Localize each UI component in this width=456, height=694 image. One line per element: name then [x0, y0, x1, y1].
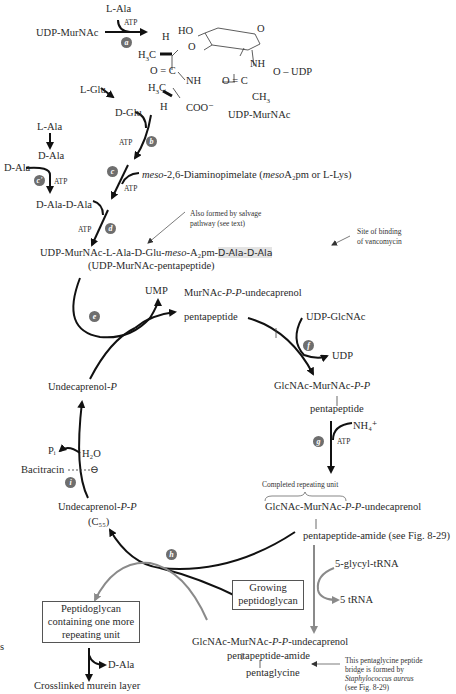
lipid-ii-label: GlcNAc-MurNAc-P-P [274, 380, 370, 392]
ump-label: UMP [145, 285, 168, 297]
d-glu-label: D-Glu [115, 107, 142, 119]
crosslinked-murein-label: Crosslinked murein layer [34, 680, 140, 692]
peptidoglycan-box: Peptidoglycan containing one more repeat… [42, 601, 140, 643]
inhibition-icon: ⊖ [90, 464, 99, 476]
atp-label-g: ATP [337, 437, 350, 446]
step-c-badge: c [107, 166, 118, 177]
step-i-badge: i [65, 477, 76, 488]
step-h-badge: h [166, 549, 177, 560]
pg-line1: Peptidoglycan [43, 602, 139, 615]
water-label: H₂O [82, 448, 101, 460]
step-a-badge: a [121, 37, 132, 48]
structure-label: UDP-MurNAc [228, 109, 290, 121]
l-ala-branch-label: L-Ala [37, 121, 62, 133]
structure-h-bottom: H [160, 101, 168, 113]
pentaglycine-label: pentaglycine [246, 667, 300, 679]
step-d-badge: d [105, 223, 116, 234]
undecaprenol-p-label: Undecaprenol-P [48, 381, 117, 393]
d-ala-released-label: D-Ala [108, 659, 134, 671]
lipid-i-label: MurNAc-P-P-undecaprenol [184, 287, 302, 299]
staph-note-line4: (see Fig. 8-29) [345, 683, 389, 692]
d-ala-label-2: D-Ala [4, 162, 30, 174]
trna-label: 5 tRNA [340, 594, 373, 606]
step-f-badge: f [303, 340, 314, 351]
vancomycin-note-line1: Site of binding [357, 227, 402, 236]
structure-o-udp: O – UDP [273, 66, 312, 78]
udp-murnac-substrate: UDP-MurNAc [36, 27, 98, 39]
lipid-iv-label: GlcNAc-MurNAc-P-P-undecaprenol [192, 636, 348, 648]
phosphate-label: Pᵢ [48, 445, 56, 457]
vancomycin-note-line2: of vancomycin [357, 237, 402, 246]
udp-glcnac-label: UDP-GlcNAc [306, 311, 366, 323]
staph-note-line3: Staphylococcus aureus [345, 674, 414, 683]
structure-h3c-top: H3C [138, 49, 156, 65]
lipid-i-pentapeptide: pentapeptide [184, 311, 238, 323]
udp-product-label: UDP [332, 350, 353, 362]
glycyl-trna-label: 5-glycyl-tRNA [335, 558, 399, 570]
l-glu-label: L-Glu [80, 84, 106, 96]
step-g-badge: g [313, 436, 324, 447]
atp-label-a: ATP [124, 18, 137, 27]
pentapeptide-amide-label: pentapeptide-amide (see Fig. 8-29) [303, 530, 450, 542]
step-c-prime-badge: c' [34, 175, 45, 186]
vancomycin-binding-site: D-Ala-D-Ala [218, 247, 272, 258]
completed-unit-label: Completed repeating unit [262, 480, 338, 489]
lipid-ii-pentapeptide: pentapeptide [310, 403, 364, 415]
structure-ether-o: O [188, 41, 196, 53]
atp-label-c-prime: ATP [54, 177, 67, 186]
pg-line3: repeating unit [43, 628, 139, 641]
diaminopimelate-label: meso-2,6-Diaminopimelate (mesoA₂pm or L-… [142, 169, 352, 181]
salvage-note-line2: pathway (see text) [190, 219, 245, 228]
structure-nh-right: NH [250, 58, 265, 70]
pg-line2: containing one more [43, 615, 139, 628]
c55-label: (C₅₅) [88, 516, 109, 528]
undecaprenol-pp-label: Undecaprenol-P-P [58, 501, 137, 513]
structure-carboxylate: COO⁻ [186, 102, 214, 114]
step-e-badge: e [89, 311, 100, 322]
lipid-iii-label: GlcNAc-MurNAc-P-P-undecaprenol [265, 501, 421, 513]
pathway-arrows [0, 0, 456, 694]
udp-murnac-pentapeptide: UDP-MurNAc-L-Ala-D-Glu-meso-A₂pm-D-Ala-D… [40, 247, 272, 259]
structure-ring-o: O [257, 23, 265, 35]
atp-label-d: ATP [78, 225, 91, 234]
growing-line1: Growing [233, 581, 303, 594]
d-ala-d-ala-label: D-Ala-D-Ala [36, 199, 92, 211]
growing-peptidoglycan-box: Growing peptidoglycan [232, 580, 304, 610]
structure-nh-left: NH [186, 75, 201, 87]
structure-ch3: CH3 [252, 91, 270, 107]
edge-fragment-text: s [0, 641, 4, 653]
structure-h-top: H [162, 31, 170, 43]
lipid-iv-pentapeptide-amide: pentapeptide-amide [227, 650, 310, 662]
structure-ho: HO [178, 25, 193, 37]
structure-carbonyl-right: O = C [222, 75, 248, 87]
atp-label-c: ATP [124, 184, 137, 193]
structure-h3c-bottom: H3C [148, 82, 166, 98]
l-ala-label: L-Ala [106, 3, 131, 15]
atp-label-b: ATP [119, 138, 132, 147]
structure-carbonyl: O = C [150, 65, 176, 77]
staph-note-line1: This pentaglycine peptide [345, 656, 422, 665]
staph-note-line2: bridge is formed by [345, 665, 404, 674]
step-b-badge: b [146, 136, 157, 147]
growing-line2: peptidoglycan [233, 594, 303, 607]
d-ala-label-1: D-Ala [38, 150, 64, 162]
pentapeptide-alias: (UDP-MurNAc-pentapeptide) [88, 260, 215, 272]
salvage-note-line1: Also formed by salvage [190, 209, 261, 218]
ammonium-label: NH₄⁺ [353, 420, 377, 432]
bacitracin-label: Bacitracin [21, 464, 64, 476]
